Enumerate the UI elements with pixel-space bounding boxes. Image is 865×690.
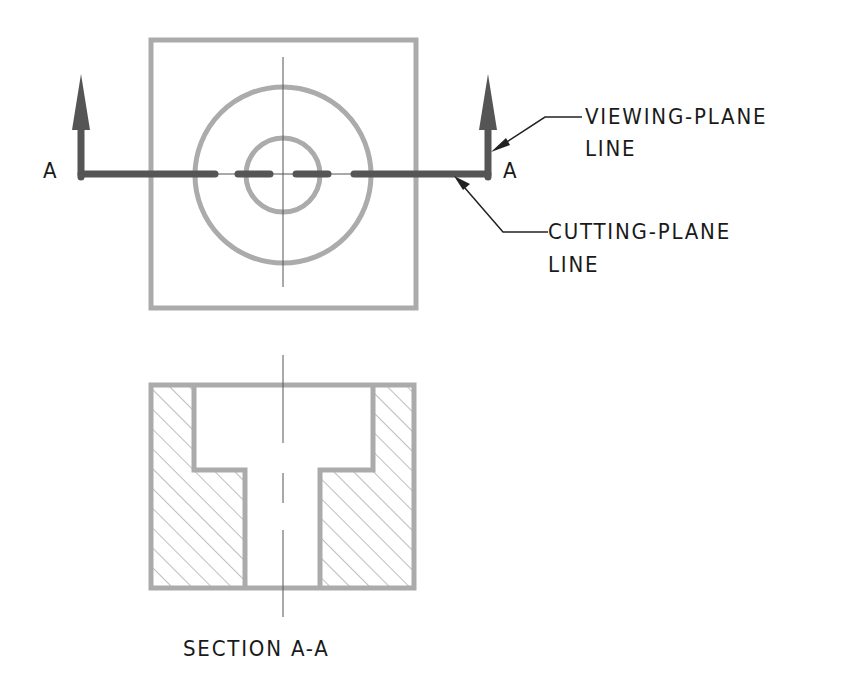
leader-arrow-icon-viewing [491,138,510,152]
viewing-plane-label-line1: VIEWING-PLANE [585,104,767,130]
arrow-up-icon-left [72,74,90,130]
cutting-plane-leader [458,180,548,232]
viewing-plane-label-line2: LINE [585,136,636,162]
cutting-plane-label-line1: CUTTING-PLANE [548,219,731,245]
cutting-plane-line [81,118,488,177]
section-view [151,355,414,617]
plane-label-left: A [43,158,58,184]
leader-arrow-icon-cutting [454,176,470,190]
cutting-plane-label-line2: LINE [548,252,599,278]
plane-label-right: A [503,158,518,184]
section-caption: SECTION A-A [183,636,330,662]
arrow-up-icon-right [479,74,497,130]
